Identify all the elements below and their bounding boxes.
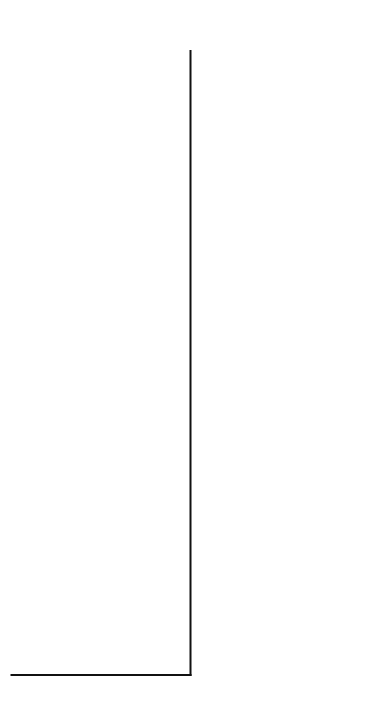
y-axis-line (10, 674, 191, 676)
x-axis-baseline (189, 50, 191, 676)
rotated-figure-stage (0, 0, 379, 726)
bar-chart-plot (0, 0, 379, 726)
